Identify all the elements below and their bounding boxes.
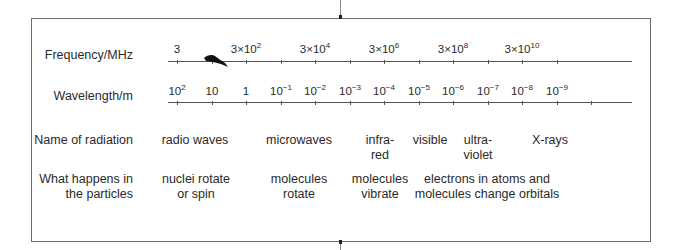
frequency-tick bbox=[557, 60, 558, 64]
wavelength-tick-label: 10 bbox=[206, 84, 219, 98]
radiation-cell: X-rays bbox=[532, 133, 568, 148]
frequency-tick-label: 3×1010 bbox=[505, 42, 540, 56]
wavelength-tick bbox=[350, 101, 351, 105]
radiation-cell: microwaves bbox=[266, 133, 332, 148]
wavelength-tick-label: 1 bbox=[243, 84, 249, 98]
frequency-tick bbox=[384, 60, 385, 64]
frequency-tick bbox=[177, 60, 178, 64]
particles-cell: molecules rotate bbox=[271, 172, 327, 202]
wavelength-tick-label: 10−4 bbox=[373, 84, 395, 98]
frequency-label: Frequency/MHz bbox=[45, 48, 133, 63]
wavelength-tick-label: 10−1 bbox=[270, 84, 292, 98]
frequency-tick bbox=[419, 60, 420, 64]
frequency-tick bbox=[488, 60, 489, 64]
wavelength-tick bbox=[557, 101, 558, 105]
wavelength-tick-label: 10−8 bbox=[511, 84, 533, 98]
wavelength-tick bbox=[453, 101, 454, 105]
wavelength-tick-label: 10−7 bbox=[477, 84, 499, 98]
wavelength-tick-label: 10−3 bbox=[339, 84, 361, 98]
frequency-tick-label: 3×106 bbox=[369, 42, 399, 56]
frequency-tick bbox=[350, 60, 351, 64]
wavelength-tick-label: 102 bbox=[168, 84, 185, 98]
radiation-cell: radio waves bbox=[162, 133, 229, 148]
radiation-cell: ultra- violet bbox=[463, 133, 492, 163]
frequency-tick-label: 3×108 bbox=[438, 42, 468, 56]
bottom-marker-dot bbox=[339, 240, 342, 244]
frequency-tick bbox=[315, 60, 316, 64]
frequency-tick bbox=[246, 60, 247, 64]
frequency-tick-label: 3×102 bbox=[231, 42, 261, 56]
wavelength-tick bbox=[315, 101, 316, 105]
wavelength-tick-label: 10−2 bbox=[304, 84, 326, 98]
frequency-axis bbox=[168, 61, 632, 62]
wavelength-tick bbox=[177, 101, 178, 105]
wavelength-tick bbox=[212, 101, 213, 105]
wavelength-label: Wavelength/m bbox=[54, 89, 133, 104]
top-marker-dot bbox=[339, 15, 342, 19]
radiation-label: Name of radiation bbox=[34, 133, 133, 148]
radiation-cell: visible bbox=[413, 133, 448, 148]
wavelength-tick bbox=[419, 101, 420, 105]
wavelength-tick bbox=[522, 101, 523, 105]
particles-cell: molecules vibrate bbox=[352, 172, 408, 202]
wavelength-tick-label: 10−6 bbox=[442, 84, 464, 98]
wavelength-axis bbox=[168, 102, 632, 103]
particles-cell: nuclei rotate or spin bbox=[162, 172, 230, 202]
frequency-tick bbox=[453, 60, 454, 64]
frequency-tick bbox=[281, 60, 282, 64]
wavelength-tick bbox=[488, 101, 489, 105]
ink-smudge-icon bbox=[203, 54, 229, 68]
particles-label: What happens in the particles bbox=[39, 172, 133, 202]
radiation-cell: infra- red bbox=[366, 133, 394, 163]
wavelength-tick-label: 10−5 bbox=[408, 84, 430, 98]
frequency-tick-label: 3 bbox=[174, 42, 180, 56]
wavelength-tick bbox=[384, 101, 385, 105]
frequency-tick-label: 3×104 bbox=[300, 42, 330, 56]
particles-cell: electrons in atoms and molecules change … bbox=[415, 172, 560, 202]
wavelength-tick bbox=[246, 101, 247, 105]
wavelength-tick bbox=[591, 101, 592, 105]
frequency-tick bbox=[522, 60, 523, 64]
wavelength-tick bbox=[281, 101, 282, 105]
wavelength-tick-label: 10−9 bbox=[546, 84, 568, 98]
